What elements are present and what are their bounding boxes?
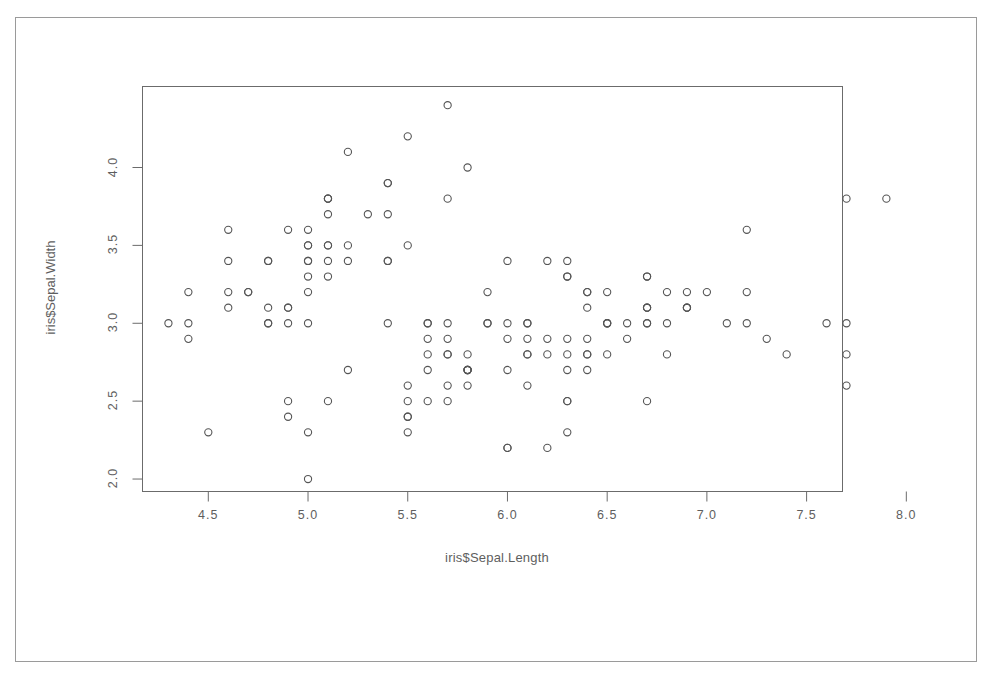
data-point bbox=[524, 320, 531, 327]
data-point bbox=[504, 366, 511, 373]
y-axis-label: iris$Sepal.Width bbox=[43, 178, 58, 398]
scatter-plot-canvas bbox=[0, 0, 994, 680]
data-point bbox=[643, 398, 650, 405]
x-tick-label: 4.5 bbox=[198, 508, 218, 522]
data-point bbox=[404, 398, 411, 405]
x-axis-ticks bbox=[208, 492, 906, 502]
data-point bbox=[524, 382, 531, 389]
data-point bbox=[324, 273, 331, 280]
data-point bbox=[683, 304, 690, 311]
data-point bbox=[225, 257, 232, 264]
data-point bbox=[304, 257, 311, 264]
data-point bbox=[464, 351, 471, 358]
data-point bbox=[564, 366, 571, 373]
data-point bbox=[444, 335, 451, 342]
data-point bbox=[444, 382, 451, 389]
data-point bbox=[404, 242, 411, 249]
data-point bbox=[304, 226, 311, 233]
x-axis-label: iris$Sepal.Length bbox=[0, 550, 994, 565]
y-axis-label-wrapper: iris$Sepal.Width bbox=[0, 0, 40, 580]
data-point bbox=[663, 320, 670, 327]
data-point bbox=[843, 351, 850, 358]
data-point bbox=[344, 242, 351, 249]
data-point bbox=[265, 320, 272, 327]
data-point bbox=[484, 320, 491, 327]
data-point bbox=[883, 195, 890, 202]
data-point bbox=[225, 226, 232, 233]
data-point bbox=[304, 273, 311, 280]
data-point bbox=[324, 242, 331, 249]
data-point bbox=[464, 382, 471, 389]
data-point bbox=[304, 475, 311, 482]
y-tick-label: 2.0 bbox=[106, 458, 120, 498]
data-point bbox=[424, 366, 431, 373]
data-point bbox=[364, 211, 371, 218]
x-tick-label: 6.5 bbox=[597, 508, 617, 522]
data-point bbox=[284, 398, 291, 405]
y-tick-label: 3.5 bbox=[106, 224, 120, 264]
data-point bbox=[344, 366, 351, 373]
data-point bbox=[823, 320, 830, 327]
data-point bbox=[245, 289, 252, 296]
data-point bbox=[324, 195, 331, 202]
data-point bbox=[464, 164, 471, 171]
data-point bbox=[564, 257, 571, 264]
data-point bbox=[404, 429, 411, 436]
y-axis-ticks bbox=[133, 168, 143, 480]
data-point bbox=[624, 335, 631, 342]
data-point bbox=[344, 148, 351, 155]
data-point bbox=[424, 320, 431, 327]
data-point bbox=[663, 351, 670, 358]
data-point bbox=[524, 335, 531, 342]
data-point bbox=[304, 289, 311, 296]
data-point bbox=[584, 335, 591, 342]
data-point bbox=[843, 382, 850, 389]
data-point bbox=[544, 335, 551, 342]
data-point bbox=[843, 320, 850, 327]
data-point bbox=[185, 289, 192, 296]
screenshot-page: 4.55.05.56.06.57.07.58.0 2.02.53.03.54.0… bbox=[0, 0, 994, 680]
data-point bbox=[504, 335, 511, 342]
data-point bbox=[165, 320, 172, 327]
data-point bbox=[324, 398, 331, 405]
data-point bbox=[324, 211, 331, 218]
y-tick-label: 2.5 bbox=[106, 380, 120, 420]
data-point bbox=[504, 444, 511, 451]
data-point bbox=[404, 413, 411, 420]
data-point bbox=[225, 304, 232, 311]
data-point bbox=[723, 320, 730, 327]
data-point bbox=[643, 304, 650, 311]
y-tick-label: 4.0 bbox=[106, 147, 120, 187]
data-point bbox=[265, 257, 272, 264]
data-point bbox=[743, 226, 750, 233]
r-plot-device: 4.55.05.56.06.57.07.58.0 2.02.53.03.54.0… bbox=[0, 0, 994, 680]
x-tick-label: 6.0 bbox=[497, 508, 517, 522]
data-point bbox=[564, 351, 571, 358]
data-point bbox=[484, 289, 491, 296]
x-tick-label: 7.0 bbox=[697, 508, 717, 522]
data-point bbox=[384, 320, 391, 327]
data-point bbox=[564, 429, 571, 436]
data-point bbox=[344, 257, 351, 264]
x-tick-label: 8.0 bbox=[896, 508, 916, 522]
data-point bbox=[304, 242, 311, 249]
x-tick-label: 7.5 bbox=[796, 508, 816, 522]
data-point bbox=[604, 351, 611, 358]
data-point bbox=[284, 320, 291, 327]
data-point bbox=[304, 320, 311, 327]
data-point bbox=[643, 320, 650, 327]
data-point bbox=[564, 335, 571, 342]
data-point bbox=[444, 102, 451, 109]
data-points bbox=[165, 102, 890, 483]
data-point bbox=[584, 289, 591, 296]
data-point bbox=[544, 351, 551, 358]
data-point bbox=[444, 351, 451, 358]
data-point bbox=[185, 320, 192, 327]
data-point bbox=[504, 320, 511, 327]
data-point bbox=[384, 257, 391, 264]
data-point bbox=[743, 320, 750, 327]
data-point bbox=[584, 304, 591, 311]
data-point bbox=[544, 257, 551, 264]
data-point bbox=[544, 444, 551, 451]
data-point bbox=[604, 289, 611, 296]
